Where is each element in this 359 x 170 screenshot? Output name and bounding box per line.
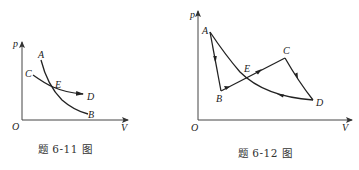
point-D-label: D [86, 91, 95, 102]
point-C-label: C [283, 45, 290, 56]
point-D-label: D [315, 97, 324, 108]
point-E-label: E [243, 63, 250, 74]
p-axis-label: p [12, 38, 18, 49]
curve-AB [41, 60, 88, 114]
arrow-DA [277, 94, 284, 98]
caption-fig-6-11: 题 6-11 图 [38, 141, 92, 156]
point-B-label: B [216, 93, 222, 104]
segment-BC [221, 58, 285, 91]
segment-DA [210, 32, 313, 100]
v-axis-label: V [121, 122, 129, 133]
arrow-BC-2 [255, 69, 262, 75]
point-E-label: E [54, 79, 61, 90]
origin-label: O [12, 121, 19, 132]
figure-6-12: p O V A B C D E [189, 9, 352, 133]
point-A-label: A [37, 49, 45, 60]
p-axis-label: p [189, 9, 195, 20]
origin-label: O [191, 122, 198, 133]
point-A-label: A [201, 25, 209, 36]
v-axis-label: V [342, 122, 350, 133]
figure-6-11: p O V A C E D B [12, 38, 129, 133]
caption-fig-6-12: 题 6-12 图 [238, 145, 292, 160]
point-C-label: C [25, 68, 32, 79]
point-B-label: B [88, 109, 94, 120]
segment-CD [285, 58, 313, 100]
